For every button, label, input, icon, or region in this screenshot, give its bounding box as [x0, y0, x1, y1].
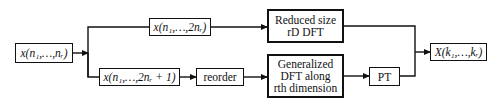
even-samples-box: x(n₁,…,2nᵣ)	[149, 18, 211, 36]
connector-lines	[0, 0, 503, 104]
reduced-dft-box: Reduced size rD DFT	[267, 9, 344, 43]
odd-samples-label: x(n₁,…,2nᵣ + 1)	[103, 71, 175, 83]
reduced-dft-line2: rD DFT	[287, 26, 324, 38]
output-spectrum-box: X(k₁,…,kᵣ)	[430, 43, 487, 61]
pt-box: PT	[369, 67, 400, 86]
pt-label: PT	[378, 71, 391, 83]
output-spectrum-label: X(k₁,…,kᵣ)	[435, 46, 483, 58]
odd-samples-box: x(n₁,…,2nᵣ + 1)	[99, 68, 180, 86]
generalized-dft-box: Generalized DFT along rth dimension	[267, 54, 344, 98]
generalized-dft-line2: DFT along	[281, 70, 331, 82]
reduced-dft-line1: Reduced size	[275, 14, 336, 26]
even-samples-label: x(n₁,…,2nᵣ)	[154, 21, 207, 33]
reorder-box: reorder	[196, 68, 244, 86]
generalized-dft-line3: rth dimension	[274, 82, 338, 94]
generalized-dft-line1: Generalized	[278, 58, 334, 70]
input-signal-box: x(n₁,…,nᵣ)	[15, 43, 73, 63]
input-signal-label: x(n₁,…,nᵣ)	[20, 47, 67, 59]
reorder-label: reorder	[203, 71, 236, 83]
